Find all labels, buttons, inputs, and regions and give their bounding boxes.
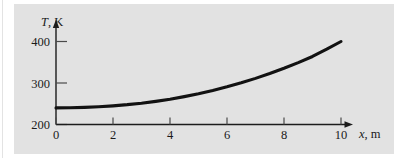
x-tick-label-6: 6 — [224, 128, 230, 142]
x-tick-labels: 0 2 4 6 8 10 — [53, 128, 347, 142]
left-edge-rule — [2, 0, 3, 158]
y-tick-label-300: 300 — [31, 77, 50, 91]
x-axis-title: x, m — [358, 127, 381, 141]
figure-root: 400 300 200 0 2 4 6 8 10 T, K x, m — [0, 0, 401, 158]
x-tick-label-4: 4 — [167, 128, 174, 142]
x-tick-label-0: 0 — [53, 128, 59, 142]
x-tick-label-2: 2 — [110, 128, 116, 142]
y-tick-labels: 400 300 200 — [31, 35, 50, 132]
chart-panel: 400 300 200 0 2 4 6 8 10 T, K x, m — [14, 4, 394, 154]
x-axis-title-unit: , m — [365, 127, 381, 141]
temperature-profile-chart: 400 300 200 0 2 4 6 8 10 T, K x, m — [14, 4, 394, 154]
x-axis — [56, 118, 353, 128]
temperature-curve — [56, 42, 341, 108]
x-tick-label-10: 10 — [335, 128, 348, 142]
y-tick-label-400: 400 — [31, 35, 50, 49]
y-axis-title: T, K — [41, 15, 63, 29]
y-tick-label-200: 200 — [31, 118, 50, 132]
y-axis-title-unit: , K — [48, 15, 63, 29]
x-tick-label-8: 8 — [281, 128, 287, 142]
